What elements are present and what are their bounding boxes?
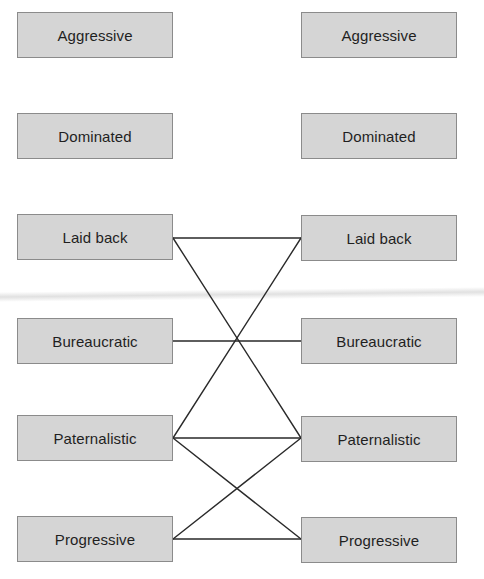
node-left-dominated: Dominated <box>17 113 173 159</box>
node-right-dominated: Dominated <box>301 113 457 159</box>
node-right-progressive: Progressive <box>301 517 457 563</box>
node-left-progressive: Progressive <box>17 516 173 562</box>
node-left-bureaucratic: Bureaucratic <box>17 318 173 364</box>
node-right-paternalistic: Paternalistic <box>301 416 457 462</box>
node-left-laid-back: Laid back <box>17 214 173 260</box>
node-right-bureaucratic: Bureaucratic <box>301 318 457 364</box>
node-left-aggressive: Aggressive <box>17 12 173 58</box>
node-right-aggressive: Aggressive <box>301 12 457 58</box>
node-left-paternalistic: Paternalistic <box>17 415 173 461</box>
node-right-laid-back: Laid back <box>301 215 457 261</box>
connector-lines <box>0 0 484 579</box>
